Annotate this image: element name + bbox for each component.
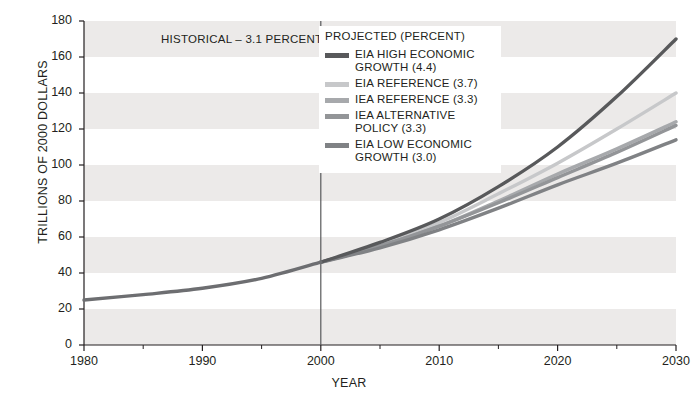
legend-item-label: EIA HIGH ECONOMIC GROWTH (4.4) [355, 48, 497, 74]
legend-item-label: EIA REFERENCE (3.7) [355, 77, 478, 90]
legend-item-label: IEA REFERENCE (3.3) [355, 93, 478, 106]
x-tick-label: 1980 [54, 354, 114, 368]
y-tick-label: 20 [32, 301, 72, 315]
historical-annotation: HISTORICAL – 3.1 PERCENT [161, 33, 322, 45]
legend-item-label: EIA LOW ECONOMIC GROWTH (3.0) [355, 138, 497, 164]
x-axis-title: YEAR [0, 376, 698, 390]
x-tick-label: 1990 [172, 354, 232, 368]
legend-item[interactable]: IEA REFERENCE (3.3) [325, 93, 497, 106]
legend-items: EIA HIGH ECONOMIC GROWTH (4.4)EIA REFERE… [325, 48, 497, 164]
y-axis-ticks [79, 21, 84, 345]
legend-color-swatch [325, 53, 349, 58]
legend-color-swatch [325, 82, 349, 87]
y-tick-label: 0 [32, 337, 72, 351]
legend: PROJECTED (PERCENT) EIA HIGH ECONOMIC GR… [319, 26, 501, 173]
x-tick-label: 2000 [291, 354, 351, 368]
legend-color-swatch [325, 143, 349, 148]
x-tick-label: 2010 [409, 354, 469, 368]
legend-item[interactable]: IEA ALTERNATIVE POLICY (3.3) [325, 109, 497, 135]
legend-title: PROJECTED (PERCENT) [325, 30, 497, 42]
x-tick-label: 2030 [646, 354, 698, 368]
x-tick-label: 2020 [528, 354, 588, 368]
legend-item[interactable]: EIA HIGH ECONOMIC GROWTH (4.4) [325, 48, 497, 74]
x-axis-ticks [84, 345, 676, 351]
legend-item-label: IEA ALTERNATIVE POLICY (3.3) [355, 109, 497, 135]
legend-color-swatch [325, 114, 349, 119]
legend-color-swatch [325, 98, 349, 103]
legend-item[interactable]: EIA REFERENCE (3.7) [325, 77, 497, 90]
legend-item[interactable]: EIA LOW ECONOMIC GROWTH (3.0) [325, 138, 497, 164]
y-axis-title: TRILLIONS OF 2000 DOLLARS [33, 12, 53, 292]
economic-growth-line-chart: 020406080100120140160180 198019902000201… [0, 0, 698, 407]
